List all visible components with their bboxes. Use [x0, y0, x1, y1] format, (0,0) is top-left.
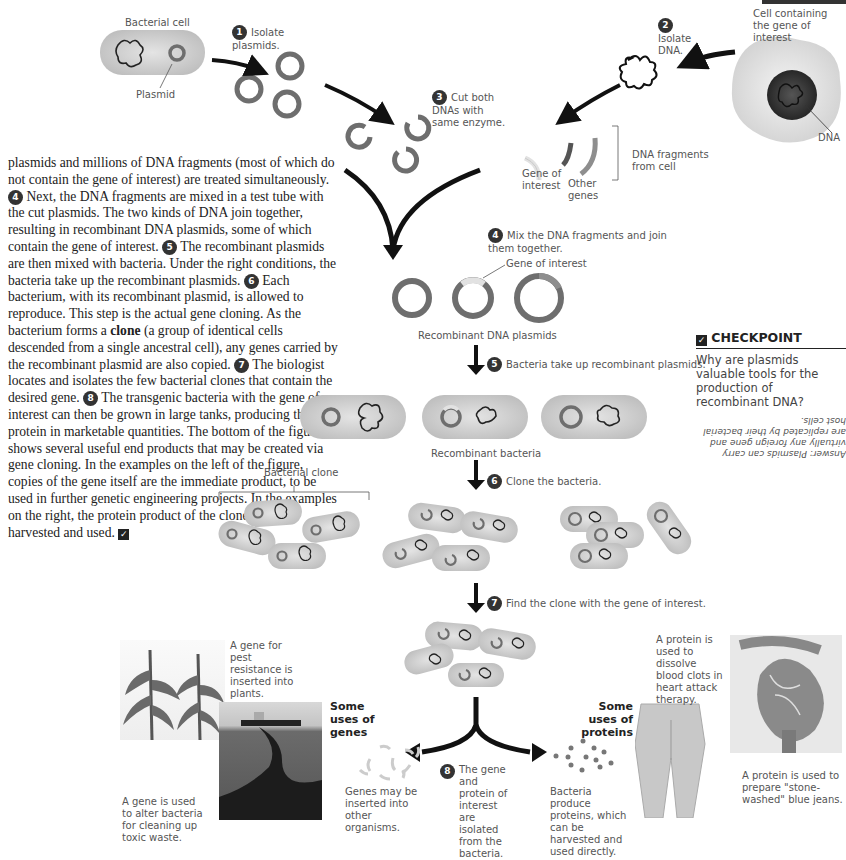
- step-6-text: Clone the bacteria.: [506, 476, 601, 487]
- step-3-number-icon: 3: [432, 90, 447, 105]
- gene-fragments-icon: [360, 746, 419, 779]
- step-4-number-icon: 4: [488, 228, 503, 243]
- step-4: 4Mix the DNA fragments and join them tog…: [488, 228, 693, 255]
- step-8-number-icon: 8: [440, 764, 455, 779]
- step-5-text: Bacteria take up recombinant plasmids.: [506, 359, 706, 370]
- gene-of-interest-label-2: Gene of interest: [506, 258, 587, 270]
- dna-label: DNA: [818, 132, 840, 144]
- recombinant-plasmids-label: Recombinant DNA plasmids: [418, 330, 557, 342]
- step-5: 5Bacteria take up recombinant plasmids.: [487, 357, 706, 372]
- oil-spill-image: [219, 702, 322, 820]
- step-5-number-icon: 5: [487, 357, 502, 372]
- step-3: 3Cut both DNAs with same enzyme.: [432, 90, 507, 129]
- step-8-text: The gene and protein of interest are iso…: [459, 764, 509, 860]
- donor-cell: [732, 37, 841, 143]
- bacterial-cell: [100, 30, 205, 88]
- recombinant-plasmids: [395, 265, 561, 320]
- cut-plasmids: [348, 117, 429, 171]
- step-2: 2Isolate DNA.: [658, 18, 706, 57]
- heart-image: [730, 635, 842, 753]
- step-2-number-icon: 2: [658, 18, 673, 33]
- corn-plants-image: [120, 640, 225, 740]
- checkpoint-heading-text: CHECKPOINT: [711, 330, 801, 345]
- checkbox-icon: ✓: [696, 335, 707, 346]
- dna-fragments-label: DNA fragments from cell: [632, 149, 712, 173]
- step-6: 6Clone the bacteria.: [487, 474, 601, 489]
- step-6-number-icon: 6: [487, 474, 502, 489]
- gene-of-interest-label: Gene of interest: [522, 168, 562, 192]
- jeans-image: [635, 700, 707, 818]
- clone-group-middle: [380, 501, 520, 571]
- step-7-number-icon: 7: [487, 596, 502, 611]
- step-1: 1Isolate plasmids.: [232, 25, 302, 52]
- step-1-number-icon: 1: [232, 25, 247, 40]
- checkpoint-answer-inverted: Answer: Plasmids can carry virtually any…: [696, 415, 846, 459]
- step-7-text: Find the clone with the gene of interest…: [506, 598, 706, 609]
- step-4-text: Mix the DNA fragments and join them toge…: [488, 230, 667, 255]
- blood-clots-caption: A protein is used to dissolve blood clot…: [656, 634, 724, 706]
- protein-dots-icon: [554, 739, 614, 773]
- recombinant-bacteria-label: Recombinant bacteria: [431, 448, 541, 460]
- bacterial-cell-label: Bacterial cell: [125, 17, 190, 29]
- selected-clone: [402, 621, 538, 687]
- checkpoint-heading: ✓ CHECKPOINT: [696, 330, 846, 349]
- jeans-caption: A protein is used to prepare "stone-wash…: [742, 770, 846, 806]
- clone-group-left: [216, 498, 362, 569]
- plasmid-label: Plasmid: [136, 89, 175, 101]
- pest-resistance-caption: A gene for pest resistance is inserted i…: [230, 640, 298, 700]
- checkpoint-question: Why are plasmids valuable tools for the …: [696, 353, 846, 409]
- uses-of-proteins-heading: Some uses of proteins: [573, 700, 633, 739]
- step-2-text: Isolate DNA.: [658, 33, 691, 56]
- recombinant-bacteria: [300, 395, 647, 439]
- isolated-plasmids: [237, 54, 302, 116]
- clone-group-right: [560, 497, 696, 569]
- uses-of-genes-heading: Some uses of genes: [330, 700, 390, 739]
- isolated-dna: [620, 56, 657, 89]
- cell-gene-label: Cell containing the gene of interest: [753, 8, 845, 44]
- bacterial-clone-bracket: [219, 486, 369, 500]
- bacterial-clone-label: Bacterial clone: [264, 467, 338, 479]
- step-7: 7Find the clone with the gene of interes…: [487, 596, 706, 611]
- step-8: 8 The gene and protein of interest are i…: [440, 764, 520, 860]
- toxic-waste-caption: A gene is used to alter bacteria for cle…: [122, 796, 204, 844]
- other-genes-label: Other genes: [568, 178, 600, 202]
- bacteria-produce-caption: Bacteria produce proteins, which can be …: [550, 786, 632, 858]
- checkpoint-box: ✓ CHECKPOINT Why are plasmids valuable t…: [696, 330, 846, 459]
- genes-inserted-caption: Genes may be inserted into other organis…: [345, 786, 423, 834]
